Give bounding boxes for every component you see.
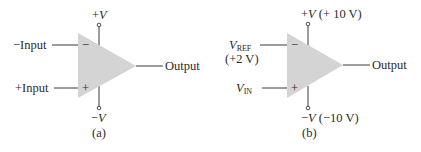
caption-a: (a)	[92, 126, 106, 140]
vref-label: VREF	[229, 38, 252, 53]
noninverting-input-label: +Input	[15, 81, 49, 95]
negative-supply-terminal	[306, 106, 310, 110]
positive-supply-terminal	[306, 22, 310, 26]
panel-a: − + +V −V −Input +Input Output (a)	[13, 8, 200, 140]
output-label: Output	[372, 58, 407, 72]
noninverting-pin-sign: +	[291, 81, 298, 95]
positive-supply-terminal	[97, 23, 101, 27]
inverting-input-label: −Input	[13, 38, 47, 52]
positive-supply-label: +V (+ 10 V)	[301, 7, 362, 21]
negative-supply-label: −V	[91, 111, 107, 125]
panel-b: − + +V (+ 10 V) −V (−10 V) VREF (+2 V) V…	[225, 7, 407, 140]
vin-label: VIN	[236, 81, 252, 96]
vref-value-label: (+2 V)	[225, 52, 259, 66]
inverting-pin-sign: −	[82, 38, 89, 52]
positive-supply-label: +V	[92, 8, 108, 22]
op-amp-diagram: − + +V −V −Input +Input Output (a) − + +…	[0, 0, 421, 152]
output-label: Output	[165, 59, 200, 73]
negative-supply-label: −V (−10 V)	[301, 111, 359, 125]
noninverting-pin-sign: +	[82, 81, 89, 95]
caption-b: (b)	[302, 126, 317, 140]
negative-supply-terminal	[97, 106, 101, 110]
inverting-pin-sign: −	[291, 38, 298, 52]
